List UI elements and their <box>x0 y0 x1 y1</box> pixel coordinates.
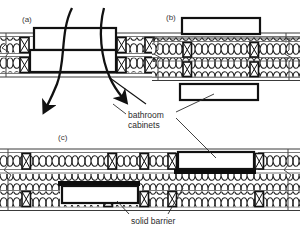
annotation-bathroom-cabinets-line2: cabinets <box>128 120 160 130</box>
batt-insulation-icon <box>152 62 300 77</box>
panel-c-label: (c) <box>58 133 68 142</box>
annotation-bathroom-cabinets-line1: bathroom <box>128 110 164 120</box>
panel-a-label: (a) <box>22 15 32 24</box>
panel-b-label: (b) <box>166 13 176 22</box>
batt-insulation-icon <box>0 174 300 190</box>
annotation-solid-barrier-label: solid barrier <box>131 216 176 226</box>
batt-insulation-icon <box>152 43 300 58</box>
wall-section-diagram: (a) <box>0 0 300 234</box>
